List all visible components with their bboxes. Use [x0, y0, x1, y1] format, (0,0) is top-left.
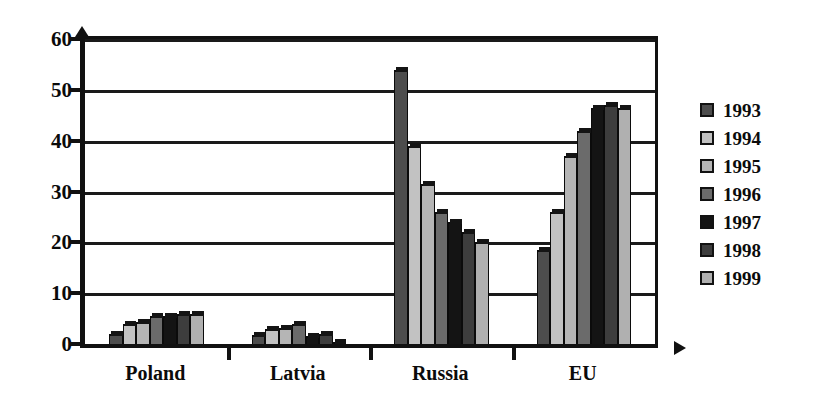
bars-layer: [85, 39, 655, 344]
legend-item-1997: 1997: [700, 208, 810, 236]
bar-eu-1994: [550, 212, 564, 344]
legend-item-1993: 1993: [700, 96, 810, 124]
bar-eu-1993: [537, 250, 551, 344]
legend-item-1996: 1996: [700, 180, 810, 208]
bar-latvia-1998: [319, 334, 333, 344]
y-axis-tick-mark: [69, 88, 82, 92]
bar-poland-1993: [109, 334, 123, 344]
legend-item-label: 1995: [723, 157, 761, 176]
legend-item-1995: 1995: [700, 152, 810, 180]
bar-russia-1998: [462, 232, 476, 344]
legend-swatch-icon: [700, 103, 714, 117]
legend-item-label: 1999: [723, 269, 761, 288]
legend-item-1999: 1999: [700, 264, 810, 292]
x-axis-tick-mark: [512, 348, 516, 360]
y-axis-tick-mark: [69, 291, 82, 295]
bar-russia-1995: [421, 184, 435, 344]
category-label-poland: Poland: [125, 362, 185, 385]
bar-latvia-1993: [252, 335, 266, 344]
bar-poland-1997: [163, 316, 177, 344]
legend-swatch-icon: [700, 131, 714, 145]
legend-item-label: 1997: [723, 213, 761, 232]
legend-item-1998: 1998: [700, 236, 810, 264]
x-axis-tick-mark: [227, 348, 231, 360]
bar-russia-1993: [394, 70, 408, 345]
legend-swatch-icon: [700, 187, 714, 201]
bar-eu-1996: [577, 131, 591, 345]
y-axis-labels: 0102030405060: [22, 26, 72, 350]
chart-legend: 1993199419951996199719981999: [700, 96, 810, 292]
bar-poland-1995: [136, 322, 150, 344]
y-axis-tick-mark: [69, 190, 82, 194]
bar-eu-1998: [604, 105, 618, 344]
bar-poland-1999: [190, 314, 204, 345]
x-axis-category-labels: PolandLatviaRussiaEU: [80, 362, 658, 392]
category-label-latvia: Latvia: [270, 362, 326, 385]
bar-latvia-1995: [279, 328, 293, 344]
legend-swatch-icon: [700, 215, 714, 229]
bar-russia-1999: [475, 242, 489, 344]
legend-item-1994: 1994: [700, 124, 810, 152]
legend-swatch-icon: [700, 271, 714, 285]
legend-swatch-icon: [700, 159, 714, 173]
y-axis-tick-mark: [69, 139, 82, 143]
bar-latvia-1994: [265, 329, 279, 344]
category-label-eu: EU: [569, 362, 597, 385]
bar-eu-1995: [564, 156, 578, 344]
bar-russia-1994: [408, 146, 422, 344]
legend-swatch-icon: [700, 243, 714, 257]
plot-area: [80, 36, 658, 348]
bar-russia-1996: [435, 212, 449, 344]
bar-chart-figure: 0102030405060 PolandLatviaRussiaEU 19931…: [0, 0, 818, 406]
bar-latvia-1997: [306, 336, 320, 344]
bar-poland-1996: [150, 316, 164, 344]
legend-item-label: 1994: [723, 129, 761, 148]
x-axis-arrow-icon: [674, 341, 686, 355]
bar-latvia-1996: [292, 324, 306, 344]
x-axis-tick-mark: [369, 348, 373, 360]
legend-item-label: 1998: [723, 241, 761, 260]
bar-latvia-1999: [333, 342, 347, 344]
bar-poland-1998: [177, 314, 191, 345]
bar-eu-1999: [618, 108, 632, 344]
legend-item-label: 1996: [723, 185, 761, 204]
bar-russia-1997: [448, 222, 462, 344]
bar-eu-1997: [591, 108, 605, 344]
y-axis-tick-mark: [69, 342, 82, 346]
y-axis-tick-mark: [69, 37, 82, 41]
y-axis-tick-mark: [69, 240, 82, 244]
bar-poland-1994: [123, 324, 137, 344]
legend-item-label: 1993: [723, 101, 761, 120]
category-label-russia: Russia: [412, 362, 469, 385]
